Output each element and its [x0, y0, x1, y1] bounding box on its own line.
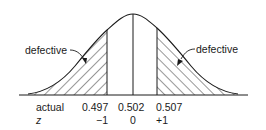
actual-value-mean: 0.502: [118, 101, 144, 113]
right-defective-region: [157, 28, 238, 95]
z-value-minus-one: −1: [96, 114, 108, 126]
z-value-zero: 0: [130, 114, 136, 126]
z-value-plus-one: +1: [156, 114, 168, 126]
right-defective-label: defective: [196, 43, 238, 55]
left-defective-region: [28, 30, 107, 95]
z-row-label: z: [36, 114, 41, 126]
actual-row-label: actual: [36, 101, 64, 113]
actual-value-plus-one: 0.507: [156, 101, 182, 113]
left-defective-label: defective: [25, 44, 67, 56]
actual-value-minus-one: 0.497: [82, 101, 108, 113]
